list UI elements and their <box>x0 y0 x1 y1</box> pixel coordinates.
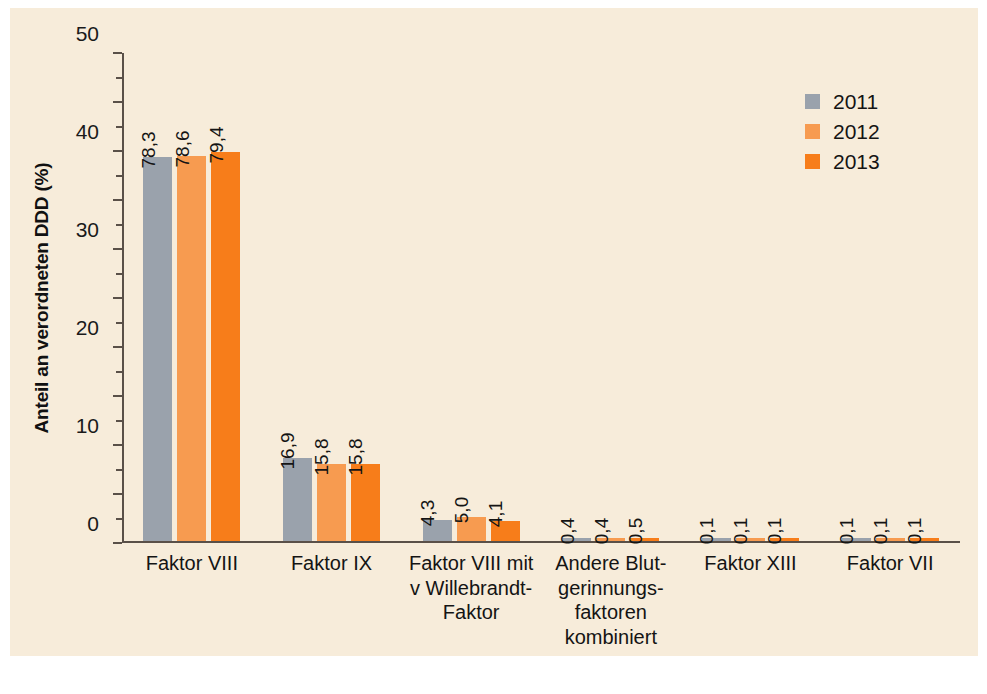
y-axis-title-text: Anteil an verordneten DDD (%) <box>31 163 53 434</box>
y-tick-major: 50 <box>113 297 122 299</box>
bar-value-label: 0,1 <box>731 518 750 544</box>
bar-value-label: 0,1 <box>697 518 716 544</box>
y-tick-major: 90 <box>113 101 122 103</box>
y-tick-label: 10 <box>76 415 99 436</box>
bar[interactable]: 78,3 <box>143 157 172 541</box>
bar-slot: 0,1 <box>736 53 765 541</box>
bar[interactable]: 0,1 <box>910 538 939 541</box>
y-axis-title: Anteil an verordneten DDD (%) <box>28 53 56 543</box>
bar-value-label: 0,4 <box>592 518 611 544</box>
bar-slot: 5,0 <box>457 53 486 541</box>
bar-slot: 16,9 <box>283 53 312 541</box>
bar[interactable]: 4,3 <box>423 520 452 541</box>
bar-slot: 4,1 <box>491 53 520 541</box>
bar-group-bars: 0,40,40,5 <box>541 53 681 541</box>
y-tick-major: 100 <box>113 52 122 54</box>
bar-slot: 0,1 <box>702 53 731 541</box>
bar[interactable]: 79,4 <box>211 152 240 541</box>
bar[interactable]: 0,4 <box>596 538 625 541</box>
bar-value-label: 0,4 <box>558 518 577 544</box>
bar-value-label: 0,5 <box>626 518 645 544</box>
legend-swatch-icon <box>805 124 820 139</box>
bar-slot: 0,1 <box>876 53 905 541</box>
bar-value-label: 4,1 <box>486 501 505 527</box>
y-tick-label: 20 <box>76 317 99 338</box>
y-tick-major: 0 <box>113 542 122 544</box>
bar-group: 0,10,10,1Faktor XIII <box>681 53 821 541</box>
y-tick-major: 60 <box>113 248 122 250</box>
bar-group-bars: 0,10,10,1 <box>681 53 821 541</box>
bar-value-label: 78,6 <box>173 130 192 167</box>
bar-value-label: 0,1 <box>837 518 856 544</box>
bar[interactable]: 16,9 <box>283 458 312 541</box>
y-tick-major: 20 <box>113 444 122 446</box>
bar-slot: 0,4 <box>562 53 591 541</box>
y-tick-major: 30 <box>113 395 122 397</box>
legend-swatch-icon <box>805 154 820 169</box>
bar-slot: 4,3 <box>423 53 452 541</box>
y-tick-label: 30 <box>76 219 99 240</box>
y-tick-major: 40 <box>113 346 122 348</box>
bar[interactable]: 4,1 <box>491 521 520 541</box>
legend-swatch-icon <box>805 94 820 109</box>
y-tick-label: 50 <box>76 23 99 44</box>
bar-value-label: 15,8 <box>346 438 365 475</box>
bar[interactable]: 15,8 <box>317 464 346 541</box>
bar-group: 0,40,40,5Andere Blut-gerinnungs-faktoren… <box>541 53 681 541</box>
bar-value-label: 0,1 <box>871 518 890 544</box>
bar-slot: 0,1 <box>770 53 799 541</box>
bar-value-label: 16,9 <box>278 433 297 470</box>
bar-value-label: 15,8 <box>312 438 331 475</box>
bar-group: 78,378,679,4Faktor VIII <box>122 53 262 541</box>
x-axis-category-line: Faktor VII <box>805 551 975 576</box>
bar[interactable]: 0,1 <box>736 538 765 541</box>
legend-item-2012[interactable]: 2012 <box>805 116 880 146</box>
chart-legend: 201120122013 <box>805 86 880 176</box>
bar-slot: 0,4 <box>596 53 625 541</box>
x-axis-line <box>122 541 960 543</box>
x-axis-category-label: Faktor VII <box>805 551 975 576</box>
bar-slot: 79,4 <box>211 53 240 541</box>
bar-slot: 15,8 <box>351 53 380 541</box>
bar[interactable]: 0,1 <box>702 538 731 541</box>
bar[interactable]: 0,1 <box>876 538 905 541</box>
y-tick-label: 40 <box>76 121 99 142</box>
legend-label: 2013 <box>833 151 880 172</box>
bar[interactable]: 0,1 <box>770 538 799 541</box>
bar[interactable]: 78,6 <box>177 156 206 541</box>
legend-item-2013[interactable]: 2013 <box>805 146 880 176</box>
bar[interactable]: 0,5 <box>630 538 659 541</box>
bar-group: 16,915,815,8Faktor IX <box>262 53 402 541</box>
bar-group: 4,35,04,1Faktor VIII mitv Willebrandt-Fa… <box>401 53 541 541</box>
bar-slot: 78,3 <box>143 53 172 541</box>
bar-value-label: 79,4 <box>207 126 226 163</box>
bar-value-label: 0,1 <box>765 518 784 544</box>
x-axis-category-line: kombiniert <box>526 625 696 650</box>
legend-item-2011[interactable]: 2011 <box>805 86 880 116</box>
bar-slot: 0,5 <box>630 53 659 541</box>
bar[interactable]: 0,1 <box>842 538 871 541</box>
bar-value-label: 4,3 <box>418 500 437 526</box>
x-axis-category-line: gerinnungs- <box>526 576 696 601</box>
bar-slot: 78,6 <box>177 53 206 541</box>
y-tick-major: 10 <box>113 493 122 495</box>
legend-label: 2012 <box>833 121 880 142</box>
y-tick-major: 80 <box>113 150 122 152</box>
y-tick-label: 0 <box>87 513 99 534</box>
bar[interactable]: 15,8 <box>351 464 380 541</box>
bar-value-label: 5,0 <box>452 496 471 522</box>
bar-slot: 0,1 <box>910 53 939 541</box>
bar-value-label: 78,3 <box>139 132 158 169</box>
chart-figure: Anteil an verordneten DDD (%) 0102030405… <box>10 8 978 656</box>
x-axis-category-line: faktoren <box>526 600 696 625</box>
bar-group-bars: 78,378,679,4 <box>122 53 262 541</box>
bar[interactable]: 5,0 <box>457 517 486 542</box>
bar[interactable]: 0,4 <box>562 538 591 541</box>
bar-slot: 15,8 <box>317 53 346 541</box>
legend-label: 2011 <box>833 91 878 112</box>
bar-value-label: 0,1 <box>905 518 924 544</box>
y-tick-major: 70 <box>113 199 122 201</box>
bar-group-bars: 16,915,815,8 <box>262 53 402 541</box>
bar-group-bars: 4,35,04,1 <box>401 53 541 541</box>
